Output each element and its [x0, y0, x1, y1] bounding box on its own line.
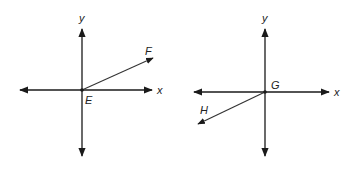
right-coordinate-plane: y x G H [194, 12, 340, 156]
point-g-label: G [271, 79, 280, 91]
x-axis-label: x [156, 84, 163, 96]
ray-gh [198, 92, 265, 124]
point-f-label: F [145, 45, 153, 57]
point-e [80, 88, 84, 92]
y-axis-label: y [261, 12, 269, 24]
point-e-label: E [85, 94, 93, 106]
x-axis-label: x [333, 86, 340, 98]
left-coordinate-plane: y x F E [20, 12, 163, 156]
y-axis-label: y [78, 12, 86, 24]
diagram-canvas: y x F E y x G H [0, 0, 357, 171]
point-g [263, 90, 267, 94]
point-h-label: H [200, 104, 208, 116]
ray-ef [82, 58, 153, 90]
